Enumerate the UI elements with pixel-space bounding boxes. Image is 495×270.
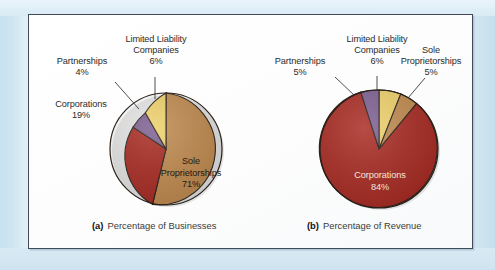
pie-b-caption-text: Percentage of Revenue	[323, 220, 422, 231]
pie-a-label-sole-line1: Sole	[137, 156, 245, 168]
pie-a-label-corporations-line1: Corporations	[37, 99, 125, 110]
pie-b-leader-partnerships	[335, 77, 355, 96]
pie-b-label-corporations-line1: Corporations	[329, 170, 431, 182]
pie-b-label-partnerships-value: 5%	[259, 67, 341, 78]
pie-b-label-sole-value: 5%	[389, 67, 473, 78]
pie-a-label-corporations-value: 19%	[37, 110, 125, 121]
pie-b-label-sole-proprietorships: Sole Proprietorships 5%	[389, 45, 473, 78]
pie-b-label-corporations: Corporations 84%	[329, 170, 431, 193]
pie-b-label-partnerships-line1: Partnerships	[259, 56, 341, 67]
pie-a-label-partnerships-line1: Partnerships	[41, 56, 123, 67]
pie-chart-a: Limited Liability Companies 6% Partnersh…	[29, 15, 251, 248]
pie-a-caption-marker: (a)	[92, 220, 103, 231]
pie-b-leader-sole-proprietorships	[408, 78, 425, 98]
figure-backdrop-bottom-band	[0, 248, 495, 270]
pie-a-label-llc-line1: Limited Liability	[101, 34, 211, 45]
pie-b-label-llc-line1: Limited Liability	[322, 34, 432, 45]
figure-panel: Limited Liability Companies 6% Partnersh…	[28, 14, 473, 249]
pie-chart-b: Limited Liability Companies 6% Partnersh…	[251, 15, 472, 248]
pie-b-label-sole-line1: Sole	[389, 45, 473, 56]
pie-a-label-sole-proprietorships: Sole Proprietorships 71%	[137, 156, 245, 191]
pie-a-caption: (a)Percentage of Businesses	[92, 220, 216, 231]
pie-a-label-partnerships-value: 4%	[41, 67, 123, 78]
pie-a-label-llc-line2: Companies	[101, 45, 211, 56]
pie-a-label-sole-value: 71%	[137, 179, 245, 191]
pie-a-caption-text: Percentage of Businesses	[107, 220, 216, 231]
pie-b-caption-marker: (b)	[307, 220, 319, 231]
pie-b-label-sole-line2: Proprietorships	[389, 56, 473, 67]
pie-b-label-corporations-value: 84%	[329, 182, 431, 194]
pie-b-caption: (b)Percentage of Revenue	[307, 220, 422, 231]
pie-a-label-partnerships: Partnerships 4%	[41, 56, 123, 78]
figure-root: Limited Liability Companies 6% Partnersh…	[0, 0, 495, 270]
pie-b-label-partnerships: Partnerships 5%	[259, 56, 341, 78]
pie-a-label-sole-line2: Proprietorships	[137, 168, 245, 180]
pie-a-label-corporations: Corporations 19%	[37, 99, 125, 121]
